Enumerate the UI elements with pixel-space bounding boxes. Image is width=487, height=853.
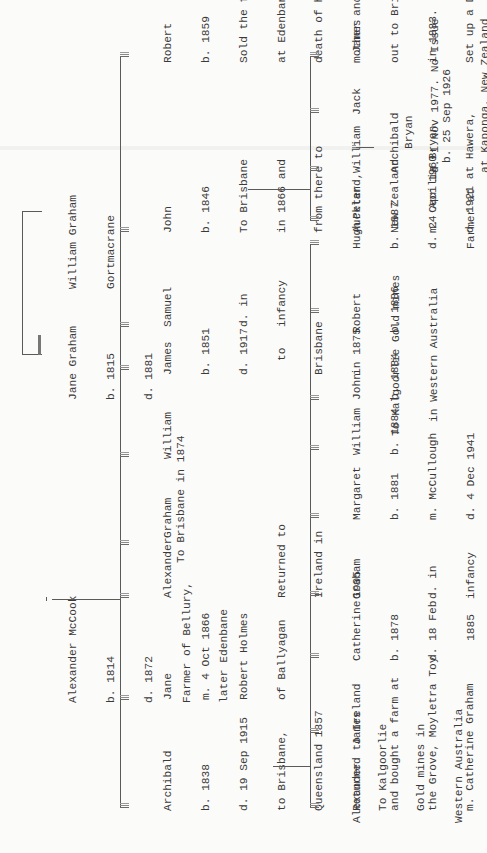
child-tick-robert bbox=[120, 56, 129, 57]
graham-bracket-right bbox=[22, 211, 42, 212]
child-tick-samuel bbox=[120, 326, 129, 327]
child-name: William bbox=[162, 412, 175, 459]
gc-detail: infancy bbox=[465, 552, 478, 599]
ggc-detail: b. 25 Sep 1926 bbox=[441, 19, 454, 163]
child-detail bbox=[200, 524, 213, 598]
child-detail: infancy bbox=[276, 280, 289, 327]
ggc-name: Bryan bbox=[403, 19, 416, 163]
mother-birth: b. 1815 bbox=[105, 326, 118, 400]
mother-name: Jane Graham bbox=[67, 326, 80, 400]
jc-name: Jack bbox=[351, 88, 364, 115]
john-to-children-connector bbox=[248, 189, 310, 190]
child-detail: to bbox=[276, 321, 289, 375]
child-detail: m. 4 Oct 1866 bbox=[200, 613, 213, 700]
child-tick-jane bbox=[120, 699, 129, 700]
gc-detail: 1885 bbox=[465, 601, 478, 661]
child-detail: d. in bbox=[238, 280, 251, 327]
gc-name: John bbox=[351, 353, 364, 400]
jc-tick-jack bbox=[310, 112, 319, 113]
child-jane: Jane m. 4 Oct 1866 Robert Holmes of Ball… bbox=[137, 613, 313, 700]
gc-tick-william bbox=[310, 449, 319, 450]
gc-name: Catherine bbox=[351, 601, 364, 661]
jc-tick-james bbox=[310, 56, 319, 57]
note-kalgoorlie-william-john-robert: To Kalgoorlie Gold mines in Western Aust… bbox=[365, 275, 466, 436]
child-detail: To Brisbane bbox=[238, 112, 251, 233]
jc-peter: Peter bbox=[326, 185, 389, 219]
gc-tick-graham bbox=[310, 595, 319, 596]
john-children-spine bbox=[310, 57, 311, 221]
child-detail: Brisbane bbox=[313, 321, 326, 375]
child-detail: Robert Holmes bbox=[238, 613, 251, 700]
ggc-bryan-death: d. 1 Nov 1977. No Issue bbox=[429, 19, 442, 173]
child-name: James bbox=[162, 321, 175, 375]
child-samuel: Samuel d. in infancy bbox=[137, 280, 313, 327]
father-birth: b. 1814 bbox=[105, 582, 118, 703]
father-name: Alexander McCook bbox=[67, 582, 80, 703]
parents-to-children-connector bbox=[52, 599, 120, 600]
child-name: John bbox=[162, 112, 175, 233]
gc-detail: m. McCullough bbox=[427, 433, 440, 520]
child-tick-william bbox=[120, 456, 129, 457]
child-william: William bbox=[137, 412, 200, 459]
child-detail: from there to bbox=[313, 112, 326, 233]
jc-name: Peter bbox=[351, 185, 364, 219]
child-detail: d. 1917 bbox=[238, 321, 251, 375]
child-name: Robert bbox=[162, 0, 175, 63]
gc-name: William bbox=[351, 408, 364, 455]
gc-tick-margaret bbox=[310, 517, 319, 518]
gc-name: Robert bbox=[351, 286, 364, 333]
child-tick-graham bbox=[120, 544, 129, 545]
child-detail: in 1866 and bbox=[276, 112, 289, 233]
gc-detail: d. 18 Feb bbox=[427, 601, 440, 661]
child-graham: Graham bbox=[137, 498, 200, 538]
mother-sibling-name: William Graham bbox=[67, 195, 80, 289]
archibald-to-children-connector bbox=[273, 766, 310, 767]
child-detail: Queensland 1857 bbox=[313, 657, 326, 811]
child-detail bbox=[200, 280, 213, 327]
gc-detail: Farmer at bbox=[465, 155, 478, 249]
child-detail: Ireland in bbox=[313, 524, 326, 598]
gc-graham: Graham d. in infancy bbox=[326, 552, 487, 599]
child-detail: of Ballyagan bbox=[276, 613, 289, 700]
marriage-mark bbox=[46, 597, 47, 601]
ggc-detail: at Kaponga, New Zealand bbox=[479, 19, 487, 173]
note-line: To Kalgoorlie Gold mines bbox=[390, 275, 403, 436]
bryan-tick bbox=[352, 149, 356, 150]
jc-name: James bbox=[351, 19, 364, 53]
gc-tick-john bbox=[310, 399, 319, 400]
gc-detail bbox=[389, 552, 402, 599]
gc-catherine: Catherine b. 1878 d. 18 Feb 1885 bbox=[326, 601, 487, 661]
jc-tick-peter bbox=[310, 220, 319, 221]
child-detail: b. 1859 bbox=[200, 0, 213, 63]
william-archibald-to-bryan-connector bbox=[352, 147, 374, 148]
gc-tick-alexander bbox=[310, 807, 319, 808]
gc-tick-catherine bbox=[310, 657, 319, 658]
child-detail: b. 1851 bbox=[200, 321, 213, 375]
gc-detail: b. 1878 bbox=[389, 601, 402, 661]
note-line: in Western Australia bbox=[428, 275, 441, 436]
archibald-children-spine-ext bbox=[310, 244, 311, 372]
gc-detail: d. in bbox=[427, 552, 440, 599]
family-tree-page: Jane Graham b. 1815 d. 1881 William Grah… bbox=[0, 0, 487, 853]
child-name: Graham bbox=[162, 498, 175, 538]
child-tick-john bbox=[120, 231, 129, 232]
child-detail: b. 1846 bbox=[200, 112, 213, 233]
note-kalgoorlie-alexander-james: To Kalgoorlie Gold mines in Western Aust… bbox=[352, 709, 487, 811]
mother-sibling-william-graham: William Graham Gortmacrane bbox=[42, 195, 143, 289]
child-name: Jane bbox=[162, 613, 175, 700]
child-detail: at Edenbane on bbox=[276, 0, 289, 63]
jc-name: William bbox=[351, 113, 364, 173]
mother-sibling-place: Gortmacrane bbox=[105, 195, 118, 289]
gc-name: Graham bbox=[351, 552, 364, 599]
note-line: Western Australia bbox=[453, 709, 466, 823]
child-detail: Sold the farm bbox=[238, 0, 251, 63]
gc-tick-james bbox=[310, 732, 319, 733]
child-detail bbox=[238, 524, 251, 598]
child-name: Samuel bbox=[162, 280, 175, 327]
child-tick-alexander bbox=[120, 597, 129, 598]
note-line: Gold mines in bbox=[415, 709, 428, 811]
child-tick-archibald bbox=[120, 807, 129, 808]
child-tick-james bbox=[120, 369, 129, 370]
gc-detail: d. 4 Dec 1941 bbox=[465, 433, 478, 520]
graham-bracket-tick-left bbox=[38, 335, 41, 355]
